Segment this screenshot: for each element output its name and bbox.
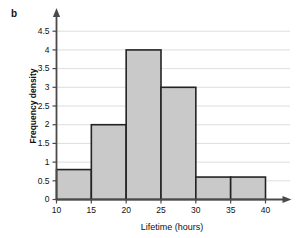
x-tick-label: 40 [261, 205, 271, 215]
histogram-bar [57, 170, 92, 200]
x-tick-label: 35 [226, 205, 236, 215]
x-tick-label: 10 [52, 205, 62, 215]
y-tick-label: 2.5 [38, 101, 50, 111]
y-tick-label: 1 [45, 157, 50, 167]
x-tick-label: 25 [156, 205, 166, 215]
y-tick-label: 4 [45, 45, 50, 55]
histogram-plot: 00.511.522.533.544.5 10152025303540 [0, 0, 306, 238]
histogram-bar [126, 50, 161, 200]
y-tick-label: 0 [45, 194, 50, 204]
y-tick-label: 0.5 [38, 176, 50, 186]
y-tick-label: 3.5 [38, 63, 50, 73]
y-tick-label: 1.5 [38, 138, 50, 148]
y-tick-label: 4.5 [38, 26, 50, 36]
x-axis-ticks: 10152025303540 [52, 200, 271, 215]
x-tick-label: 20 [121, 205, 131, 215]
histogram-bar [231, 177, 266, 199]
y-axis-ticks: 00.511.522.533.544.5 [38, 26, 57, 204]
x-axis-arrow [283, 196, 292, 203]
histogram-bar [196, 177, 231, 199]
y-axis-arrow [53, 8, 60, 17]
histogram-bar [161, 87, 196, 199]
histogram-bar [91, 125, 126, 200]
x-tick-label: 30 [191, 205, 201, 215]
x-tick-label: 15 [87, 205, 97, 215]
y-tick-label: 2 [45, 119, 50, 129]
y-tick-label: 3 [45, 82, 50, 92]
histogram-figure: b Frequency density Lifetime (hours) 00.… [0, 0, 306, 238]
